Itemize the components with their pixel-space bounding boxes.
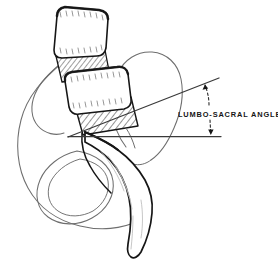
lumbosacral-angle-figure: LUMBO-SACRAL ANGLE [0, 0, 278, 272]
diagram-canvas: LUMBO-SACRAL ANGLE [0, 0, 278, 272]
lumbo-sacral-angle-label: LUMBO-SACRAL ANGLE [178, 110, 278, 119]
vertebral-body-upper [54, 7, 108, 58]
vertebral-body-middle [65, 67, 131, 114]
